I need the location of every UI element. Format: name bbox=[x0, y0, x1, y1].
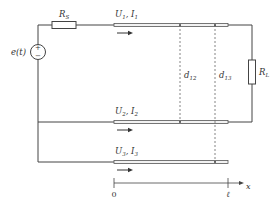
d12-top-dot bbox=[179, 24, 181, 26]
conductor-2-label: U2, I2 bbox=[115, 106, 138, 117]
d13-label: d13 bbox=[219, 70, 232, 81]
load-resistor bbox=[249, 60, 256, 84]
current-arrow-icon bbox=[117, 128, 133, 132]
rl-label: RL bbox=[258, 67, 269, 78]
svg-text:+: + bbox=[35, 44, 41, 52]
axis-x-label: x bbox=[246, 182, 251, 191]
voltage-source-icon: + − bbox=[31, 44, 46, 60]
conductor-3-label: U3, I3 bbox=[115, 146, 138, 157]
current-arrow-icon bbox=[117, 31, 133, 35]
source-resistor bbox=[52, 22, 76, 29]
d13-bottom-dot bbox=[214, 161, 216, 163]
conductor-3 bbox=[114, 161, 228, 164]
d12-label: d12 bbox=[184, 70, 197, 81]
d12-bottom-dot bbox=[179, 121, 181, 123]
transmission-line-diagram: + − e(t) RS U1, I1 U2, I2 U3, I3 RL d12 … bbox=[0, 0, 280, 209]
rs-label: RS bbox=[58, 9, 69, 20]
current-arrow-icon bbox=[117, 168, 133, 172]
conductor-2 bbox=[114, 121, 228, 124]
conductor-1 bbox=[114, 24, 228, 27]
svg-text:−: − bbox=[35, 52, 41, 60]
d13-top-dot bbox=[214, 24, 216, 26]
source-label: e(t) bbox=[11, 47, 26, 57]
axis-origin-label: 0 bbox=[111, 190, 116, 199]
conductor-1-label: U1, I1 bbox=[115, 9, 138, 20]
x-axis bbox=[114, 178, 244, 188]
axis-length-label: ℓ bbox=[226, 190, 230, 199]
